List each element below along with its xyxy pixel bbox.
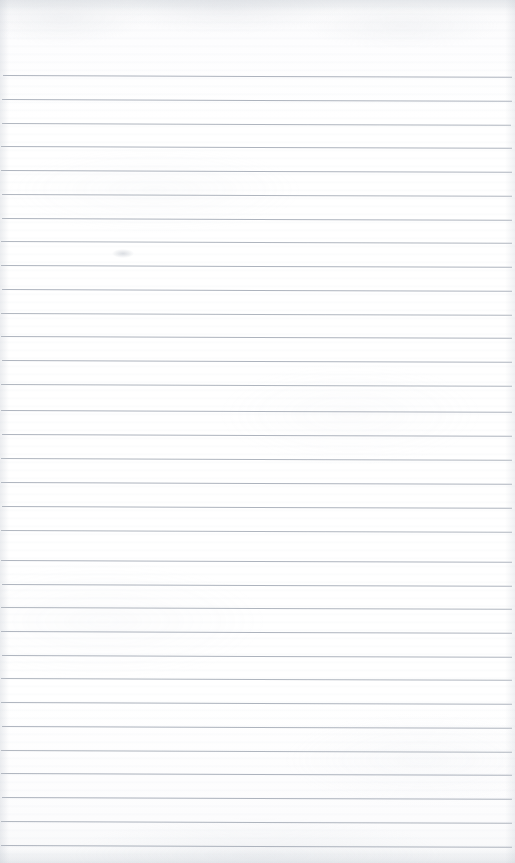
notebook-page xyxy=(0,0,515,863)
writing-area[interactable] xyxy=(2,75,512,855)
